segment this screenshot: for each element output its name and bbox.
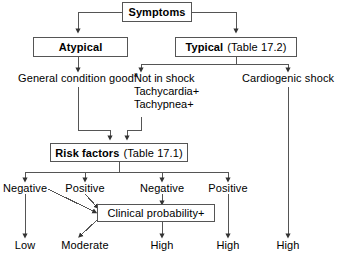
node-symptoms-label: Symptoms: [128, 6, 185, 18]
node-risk-factors-table-ref: (Table 17.1): [123, 147, 182, 159]
node-clinical-probability-label: Clinical probability+: [107, 207, 204, 219]
node-risk-factors-label: Risk factors: [55, 147, 119, 159]
node-clinical-probability[interactable]: Clinical probability+: [97, 204, 215, 222]
label-not-in-shock-group: Not in shock Tachycardia+ Tachypnea+: [134, 72, 199, 111]
label-cardiogenic-shock: Cardiogenic shock: [242, 72, 334, 84]
node-typical-table-ref: (Table 17.2): [227, 41, 286, 53]
node-symptoms[interactable]: Symptoms: [122, 2, 192, 22]
node-risk-factors[interactable]: Risk factors (Table 17.1): [50, 143, 188, 162]
label-negative-right: Negative: [140, 182, 184, 194]
outcome-low: Low: [15, 239, 35, 251]
label-positive-left: Positive: [65, 182, 104, 194]
node-typical[interactable]: Typical (Table 17.2): [175, 37, 297, 57]
flowchart-canvas: Symptoms Atypical Typical (Table 17.2) G…: [0, 0, 338, 259]
label-tachycardia: Tachycardia+: [134, 85, 199, 98]
outcome-high-3: High: [276, 239, 299, 251]
node-atypical-label: Atypical: [59, 41, 103, 53]
label-not-in-shock: Not in shock: [134, 72, 199, 85]
label-tachypnea: Tachypnea+: [134, 98, 199, 111]
outcome-moderate: Moderate: [61, 239, 108, 251]
label-positive-right: Positive: [208, 182, 247, 194]
outcome-high-2: High: [216, 239, 239, 251]
label-general-condition-good-text: General condition good: [18, 72, 134, 84]
node-atypical[interactable]: Atypical: [33, 37, 128, 57]
label-general-condition-good: General condition gooda: [18, 72, 138, 84]
node-typical-label: Typical: [185, 41, 223, 53]
label-negative-left: Negative: [3, 182, 47, 194]
outcome-high-1: High: [150, 239, 173, 251]
